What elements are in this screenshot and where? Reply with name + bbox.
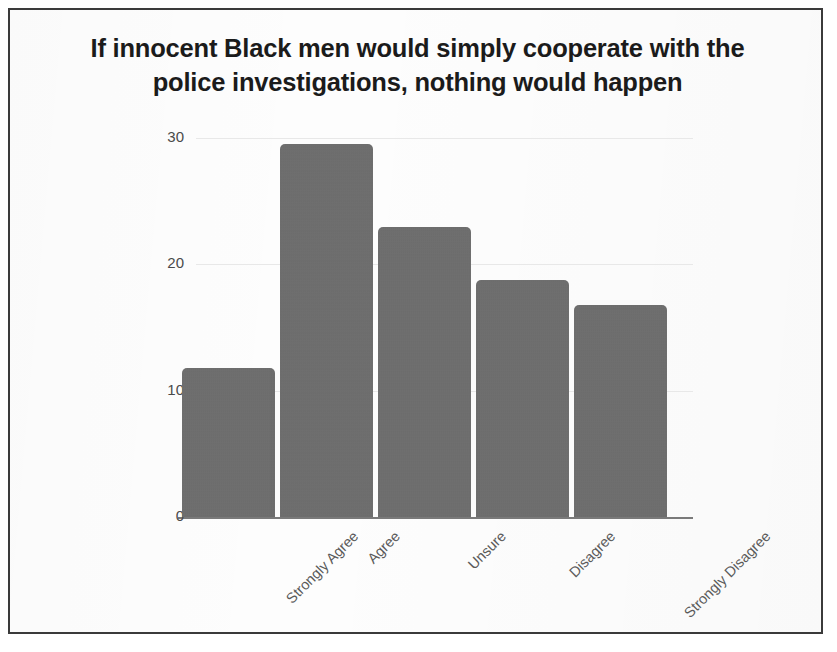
bar-strongly-disagree bbox=[574, 305, 667, 517]
x-axis-tick-label-unsure: Unsure bbox=[464, 528, 508, 572]
bar-unsure bbox=[378, 227, 471, 517]
bar-disagree bbox=[476, 280, 569, 517]
gridline-30 bbox=[196, 138, 693, 139]
y-axis-tick-label-30: 30 bbox=[144, 128, 184, 145]
bar-strongly-agree bbox=[182, 368, 275, 517]
bar-chart-plot-area: 0102030 Strongly AgreeAgreeUnsureDisagre… bbox=[10, 10, 821, 632]
x-axis-baseline bbox=[178, 517, 693, 519]
y-axis-tick-label-20: 20 bbox=[144, 254, 184, 271]
chart-page-frame: If innocent Black men would simply coope… bbox=[8, 8, 823, 634]
x-axis-tick-label-strongly-agree: Strongly Agree bbox=[282, 528, 361, 607]
x-axis-tick-label-agree: Agree bbox=[364, 528, 403, 567]
x-axis-tick-label-strongly-disagree: Strongly Disagree bbox=[680, 528, 773, 621]
y-axis-tick-label-10: 10 bbox=[144, 381, 184, 398]
x-axis-tick-label-disagree: Disagree bbox=[565, 528, 617, 580]
y-axis-tick-label-0: 0 bbox=[144, 507, 184, 524]
bar-agree bbox=[280, 144, 373, 517]
